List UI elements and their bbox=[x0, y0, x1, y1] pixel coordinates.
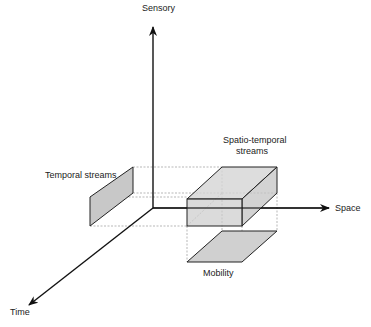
spatiotemporal-label-line1: Spatio-temporal bbox=[223, 135, 287, 146]
time-axis-label: Time bbox=[10, 307, 30, 318]
spatiotemporal-label-line2: streams bbox=[236, 146, 268, 157]
mobility-label: Mobility bbox=[203, 268, 234, 279]
axes-diagram bbox=[0, 0, 371, 327]
spatiotemporal-box bbox=[153, 167, 329, 226]
diagram-canvas: Sensory Space Time Temporal streams Spat… bbox=[0, 0, 371, 327]
space-axis-label: Space bbox=[335, 203, 361, 214]
mobility-plane bbox=[187, 231, 277, 262]
sensory-axis-label: Sensory bbox=[142, 3, 175, 14]
temporal-streams-label: Temporal streams bbox=[45, 170, 117, 181]
